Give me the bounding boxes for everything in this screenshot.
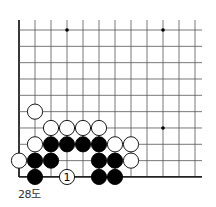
white-stone-icon (43, 120, 58, 135)
board-grid (19, 20, 202, 177)
black-stone-icon (91, 153, 106, 168)
white-stone-icon (59, 120, 74, 135)
white-stone-icon (123, 137, 138, 152)
move-number-label: 1 (64, 171, 71, 184)
black-stone (91, 169, 106, 184)
black-stone-icon (43, 153, 58, 168)
white-stone-icon (123, 153, 138, 168)
black-stone (107, 169, 122, 184)
black-stone (91, 153, 106, 168)
black-stone (59, 137, 74, 152)
black-stone (43, 137, 58, 152)
diagram-caption: 28도 (18, 185, 41, 201)
white-stone (91, 120, 106, 135)
black-stone (107, 153, 122, 168)
white-stone-icon (11, 153, 26, 168)
black-stone-icon (91, 137, 106, 152)
white-stone (123, 137, 138, 152)
black-stone-icon (107, 153, 122, 168)
white-stone (123, 153, 138, 168)
white-stone (27, 104, 42, 119)
white-stone-icon (75, 120, 90, 135)
black-stone (27, 153, 42, 168)
white-stone-icon (91, 120, 106, 135)
white-stone-icon (27, 104, 42, 119)
go-board-diagram: 1 (0, 0, 216, 207)
white-stone (27, 137, 42, 152)
white-stone: 1 (59, 169, 74, 184)
black-stone-icon (75, 137, 90, 152)
black-stone (43, 153, 58, 168)
black-stone-icon (59, 137, 74, 152)
black-stone-icon (27, 153, 42, 168)
star-point-icon (161, 28, 165, 32)
white-stone (59, 120, 74, 135)
black-stone (91, 137, 106, 152)
white-stone-icon (27, 137, 42, 152)
white-stone (75, 120, 90, 135)
star-point-icon (161, 126, 165, 130)
black-stone-icon (107, 169, 122, 184)
white-stone-icon (107, 137, 122, 152)
black-stone (75, 137, 90, 152)
black-stone-icon (43, 137, 58, 152)
stones-layer: 1 (11, 104, 138, 185)
white-stone (11, 153, 26, 168)
star-point-icon (65, 28, 69, 32)
black-stone-icon (27, 169, 42, 184)
black-stone (27, 169, 42, 184)
black-stone-icon (91, 169, 106, 184)
white-stone (107, 137, 122, 152)
white-stone (43, 120, 58, 135)
